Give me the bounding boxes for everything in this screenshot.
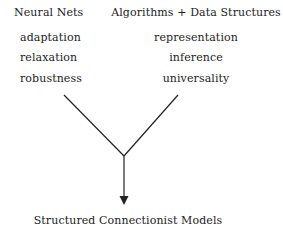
result-label: Structured Connectionist Models	[34, 214, 223, 227]
left-branch-line	[64, 95, 124, 156]
merge-arrow	[0, 0, 283, 230]
right-branch-line	[124, 95, 178, 156]
arrowhead-icon	[120, 196, 129, 205]
